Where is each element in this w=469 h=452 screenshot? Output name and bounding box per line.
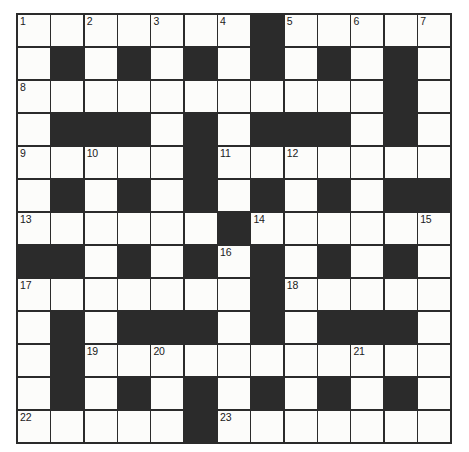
open-cell[interactable]: 6 xyxy=(351,15,383,46)
open-cell[interactable] xyxy=(285,411,317,442)
open-cell[interactable] xyxy=(51,15,83,46)
open-cell[interactable]: 13 xyxy=(18,213,50,244)
open-cell[interactable] xyxy=(85,180,117,211)
open-cell[interactable] xyxy=(385,345,417,376)
open-cell[interactable] xyxy=(85,246,117,277)
open-cell[interactable] xyxy=(51,81,83,112)
open-cell[interactable] xyxy=(151,81,183,112)
open-cell[interactable] xyxy=(18,378,50,409)
open-cell[interactable] xyxy=(418,312,450,343)
open-cell[interactable] xyxy=(85,81,117,112)
open-cell[interactable]: 15 xyxy=(418,213,450,244)
open-cell[interactable] xyxy=(218,180,250,211)
open-cell[interactable] xyxy=(18,345,50,376)
open-cell[interactable] xyxy=(418,411,450,442)
open-cell[interactable]: 11 xyxy=(218,147,250,178)
open-cell[interactable] xyxy=(385,147,417,178)
open-cell[interactable] xyxy=(318,147,350,178)
open-cell[interactable] xyxy=(151,213,183,244)
open-cell[interactable] xyxy=(351,147,383,178)
open-cell[interactable] xyxy=(151,180,183,211)
open-cell[interactable] xyxy=(85,279,117,310)
open-cell[interactable] xyxy=(118,213,150,244)
open-cell[interactable] xyxy=(151,246,183,277)
open-cell[interactable] xyxy=(51,279,83,310)
open-cell[interactable] xyxy=(318,15,350,46)
open-cell[interactable]: 23 xyxy=(218,411,250,442)
open-cell[interactable] xyxy=(418,246,450,277)
open-cell[interactable] xyxy=(118,81,150,112)
open-cell[interactable] xyxy=(185,213,217,244)
open-cell[interactable]: 17 xyxy=(18,279,50,310)
open-cell[interactable] xyxy=(85,48,117,79)
open-cell[interactable] xyxy=(118,345,150,376)
open-cell[interactable]: 22 xyxy=(18,411,50,442)
open-cell[interactable] xyxy=(151,48,183,79)
open-cell[interactable] xyxy=(18,312,50,343)
open-cell[interactable] xyxy=(385,411,417,442)
open-cell[interactable] xyxy=(151,279,183,310)
open-cell[interactable]: 10 xyxy=(85,147,117,178)
open-cell[interactable] xyxy=(185,15,217,46)
open-cell[interactable] xyxy=(185,345,217,376)
open-cell[interactable] xyxy=(251,81,283,112)
open-cell[interactable] xyxy=(85,411,117,442)
open-cell[interactable] xyxy=(218,378,250,409)
open-cell[interactable] xyxy=(51,411,83,442)
crossword-grid[interactable]: 1234567891011121314151617181920212223 xyxy=(16,13,452,444)
open-cell[interactable] xyxy=(151,411,183,442)
open-cell[interactable] xyxy=(418,114,450,145)
open-cell[interactable] xyxy=(418,147,450,178)
open-cell[interactable] xyxy=(118,279,150,310)
open-cell[interactable]: 8 xyxy=(18,81,50,112)
open-cell[interactable]: 9 xyxy=(18,147,50,178)
open-cell[interactable] xyxy=(285,378,317,409)
open-cell[interactable]: 4 xyxy=(218,15,250,46)
open-cell[interactable] xyxy=(285,180,317,211)
open-cell[interactable]: 5 xyxy=(285,15,317,46)
open-cell[interactable] xyxy=(351,213,383,244)
open-cell[interactable] xyxy=(118,411,150,442)
open-cell[interactable] xyxy=(18,48,50,79)
open-cell[interactable] xyxy=(185,81,217,112)
open-cell[interactable] xyxy=(218,48,250,79)
open-cell[interactable] xyxy=(18,114,50,145)
open-cell[interactable] xyxy=(285,213,317,244)
open-cell[interactable] xyxy=(151,147,183,178)
open-cell[interactable] xyxy=(51,213,83,244)
open-cell[interactable]: 12 xyxy=(285,147,317,178)
open-cell[interactable] xyxy=(351,81,383,112)
open-cell[interactable] xyxy=(218,345,250,376)
open-cell[interactable] xyxy=(151,378,183,409)
open-cell[interactable] xyxy=(318,279,350,310)
open-cell[interactable] xyxy=(351,279,383,310)
open-cell[interactable] xyxy=(151,114,183,145)
open-cell[interactable] xyxy=(418,279,450,310)
open-cell[interactable] xyxy=(318,81,350,112)
open-cell[interactable] xyxy=(418,81,450,112)
open-cell[interactable] xyxy=(351,246,383,277)
open-cell[interactable]: 2 xyxy=(85,15,117,46)
open-cell[interactable] xyxy=(251,411,283,442)
open-cell[interactable] xyxy=(18,180,50,211)
open-cell[interactable] xyxy=(218,312,250,343)
open-cell[interactable] xyxy=(85,213,117,244)
open-cell[interactable]: 16 xyxy=(218,246,250,277)
open-cell[interactable]: 7 xyxy=(418,15,450,46)
open-cell[interactable] xyxy=(251,147,283,178)
open-cell[interactable] xyxy=(218,279,250,310)
open-cell[interactable] xyxy=(285,48,317,79)
open-cell[interactable]: 19 xyxy=(85,345,117,376)
open-cell[interactable]: 3 xyxy=(151,15,183,46)
open-cell[interactable] xyxy=(351,114,383,145)
open-cell[interactable] xyxy=(118,15,150,46)
open-cell[interactable] xyxy=(285,345,317,376)
open-cell[interactable]: 21 xyxy=(351,345,383,376)
open-cell[interactable] xyxy=(285,312,317,343)
open-cell[interactable] xyxy=(185,279,217,310)
open-cell[interactable] xyxy=(218,114,250,145)
open-cell[interactable] xyxy=(351,48,383,79)
open-cell[interactable]: 20 xyxy=(151,345,183,376)
open-cell[interactable] xyxy=(385,15,417,46)
open-cell[interactable] xyxy=(418,378,450,409)
